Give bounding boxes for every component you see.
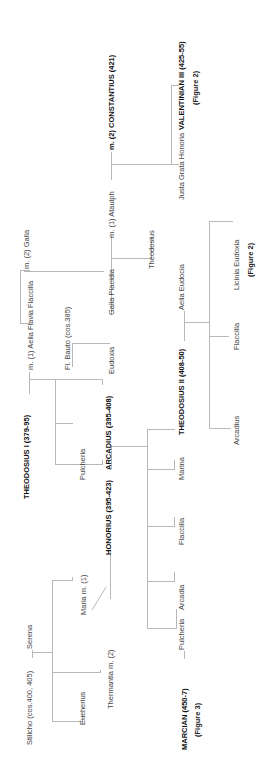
person-stilicho: Stilicho (cos.400, 405) <box>25 671 34 745</box>
spouse-serena: Serena <box>25 625 34 649</box>
marcian-figure-ref: (Figure 3) <box>193 703 202 737</box>
person-maria: Maria m. (1) <box>79 575 88 615</box>
person-flaccilla-arc: Flaccilla <box>177 518 186 545</box>
person-marina: Marina <box>177 457 186 480</box>
person-aelia-eudocia: Aelia Eudocia <box>177 264 186 310</box>
person-valentinian-iii: VALENTINIAN III (425-55) <box>177 41 186 130</box>
person-arcadia: Arcadia <box>177 585 186 610</box>
person-pulcheria-ti: Pulcheria <box>78 449 87 480</box>
person-marcian: MARCIAN (450-7) <box>180 688 189 750</box>
spouse-aelia-flavia-flaccilla: m. (1) Aelia Flavia Flaccilla <box>26 281 35 370</box>
person-arcadius-tii: Arcadius <box>232 416 241 445</box>
spouse-constantius: m. (2) CONSTANTIUS (421) <box>107 55 116 150</box>
person-honorius: HONORIUS (395-423) <box>104 480 113 555</box>
spouse-galla: m. (2) Galla <box>22 230 31 269</box>
person-theodosius-gp: Theodosius <box>147 230 156 269</box>
valentinian-iii-figure-ref: (Figure 2) <box>191 71 200 105</box>
person-theodosius-i: THEODOSIUS I (379-95) <box>22 415 31 499</box>
person-eucherius: Eucherius <box>78 692 87 725</box>
person-thermantia: Thermantia m. (2) <box>106 649 115 709</box>
person-galla-placidia: Galla Placidia <box>107 269 116 315</box>
licinia-eudoxia-figure-ref: (Figure 2) <box>246 243 255 277</box>
person-flaccilla-tii: Flaccilla <box>232 323 241 350</box>
person-theodosius-ii: THEODOSIUS II (408-50) <box>177 349 186 435</box>
person-eudoxia: Eudoxia <box>107 347 116 374</box>
person-arcadius: ARCADIUS (395-408) <box>104 396 113 470</box>
family-tree-diagram: THEODOSIUS I (379-95) m. (1) Aelia Flavi… <box>0 0 272 777</box>
person-fl-bauto: Fl. Bauto (cos.385) <box>63 307 72 370</box>
person-pulcheria-arc: Pulcheria <box>177 619 186 650</box>
person-licinia-eudoxia: Licinia Eudoxia <box>232 240 241 290</box>
person-justa-grata-honoria: Justa Grata Honoria <box>177 133 186 200</box>
spouse-ataulph: m. (1) Ataulph <box>107 191 116 238</box>
diagonal-connector <box>0 0 272 777</box>
